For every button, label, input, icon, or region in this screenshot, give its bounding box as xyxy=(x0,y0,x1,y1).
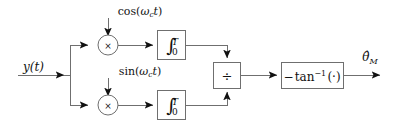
integral-upper-limit-bottom: T xyxy=(172,97,178,107)
wire-integrator-bottom-to-divider xyxy=(186,92,227,105)
arctan-minus-sign: − xyxy=(283,70,293,84)
integral-lower-limit-top: 0 xyxy=(172,47,178,57)
cos-fn-text: cos xyxy=(118,5,136,18)
sin-omega: ω xyxy=(139,65,148,78)
output-subscript: M xyxy=(370,57,378,66)
block-diagram: y(t) cos(ωct) sin(ωct) × × ∫T0 ∫T0 ÷ − t… xyxy=(0,0,399,136)
diagram-canvas xyxy=(0,0,399,136)
arctan-superscript: −1 xyxy=(314,69,326,78)
output-label: θ̂M xyxy=(362,51,377,66)
integrator-bottom-symbol: ∫T0 xyxy=(166,96,178,117)
cos-close-paren: ) xyxy=(158,5,162,18)
integrator-top-symbol: ∫T0 xyxy=(166,36,178,57)
wire-integrator-top-to-divider xyxy=(186,45,227,58)
carrier-label-cosine: cos(ωct) xyxy=(118,6,163,19)
input-label: y(t) xyxy=(23,61,44,73)
arctan-fn-text: tan xyxy=(295,70,315,84)
sin-fn-text: sin xyxy=(119,65,135,78)
integral-upper-limit-top: T xyxy=(172,37,178,47)
cos-omega: ω xyxy=(140,5,149,18)
multiplier-bottom-symbol: × xyxy=(104,102,112,111)
sin-close-paren: ) xyxy=(157,65,161,78)
integral-lower-limit-bottom: 0 xyxy=(172,107,178,117)
arctan-argument: (·) xyxy=(327,70,340,84)
arctan-expression: − tan−1 (·) xyxy=(283,70,340,83)
multiplier-top-symbol: × xyxy=(104,42,112,51)
carrier-label-sine: sin(ωct) xyxy=(119,66,161,79)
divider-symbol: ÷ xyxy=(222,70,233,83)
